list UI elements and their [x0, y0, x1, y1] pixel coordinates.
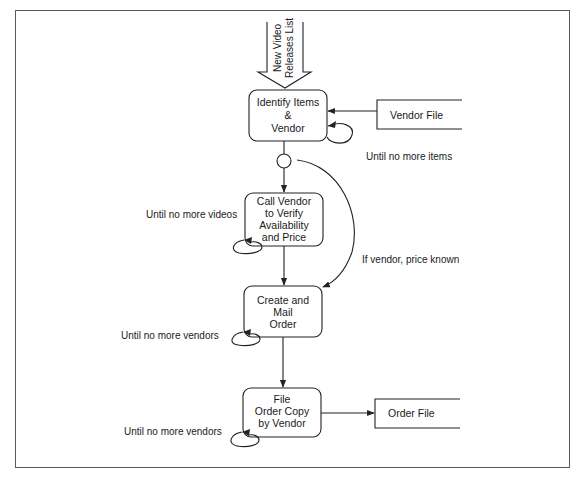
process-identify-items: Identify Items & Vendor [249, 90, 327, 141]
process-label-line: Mail [273, 306, 292, 318]
process-label-line: by Vendor [258, 417, 306, 429]
loop-label-p2: Until no more videos [146, 209, 237, 220]
loop-label-p1: Until no more items [366, 151, 452, 162]
input-flow-label-1: New Video [272, 23, 283, 72]
loop-arrowhead-icon [328, 121, 336, 128]
loop-label-p3: Until no more vendors [121, 330, 219, 341]
process-label-line: Order Copy [255, 405, 310, 417]
process-label-line: Vendor [271, 122, 305, 134]
process-label-line: File [274, 393, 291, 405]
input-flow-label-2: Releases List [284, 18, 295, 78]
process-label-line: Identify Items [257, 96, 319, 108]
process-label-line: to Verify [265, 207, 304, 219]
data-store-label: Vendor File [390, 109, 443, 121]
process-call-vendor: Call Vendor to Verify Availability and P… [245, 193, 323, 246]
process-file-order-copy: File Order Copy by Vendor [243, 388, 321, 437]
data-store-label: Order File [388, 407, 435, 419]
process-label-line: Create and [257, 294, 309, 306]
data-store-order-file: Order File [375, 399, 460, 428]
loop-label-p4: Until no more vendors [124, 426, 222, 437]
process-label-line: Call Vendor [257, 195, 312, 207]
conditional-flow-label: If vendor, price known [362, 254, 459, 265]
process-create-mail-order: Create and Mail Order [244, 286, 322, 337]
process-label-line: and Price [262, 231, 307, 243]
process-label-line: & [284, 109, 291, 121]
data-store-vendor-file: Vendor File [377, 100, 462, 129]
input-flow-arrow: New Video Releases List [258, 18, 311, 88]
process-label-line: Order [270, 318, 297, 330]
decision-connector [277, 154, 291, 168]
process-diagram: New Video Releases List Identify Items &… [0, 0, 583, 479]
process-label-line: Availability [259, 219, 309, 231]
